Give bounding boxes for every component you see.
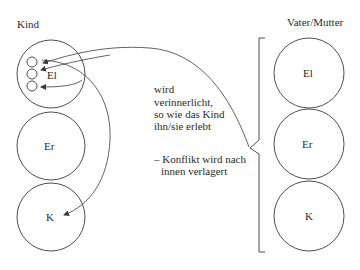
introject-circle-2 (27, 69, 37, 79)
annotation-line-4: ihn/sie erlebt (154, 120, 211, 133)
diagram-canvas (0, 0, 360, 270)
parent-k-label: K (305, 210, 313, 223)
kind-el-label: El (47, 69, 57, 82)
kind-k-label: K (46, 211, 54, 224)
note-line-2: innen verlagert (161, 165, 227, 178)
introject-circle-1 (27, 57, 37, 67)
kind-er-label: Er (44, 140, 54, 153)
parent-el-label: El (303, 67, 313, 80)
introject-circle-3 (27, 81, 37, 91)
el-inner-arrow (41, 55, 110, 70)
parent-er-label: Er (302, 138, 312, 151)
kind-title: Kind (17, 18, 39, 31)
bracket (250, 38, 265, 252)
annotation-line-1: wird (154, 83, 174, 96)
parent-title: Vater/Mutter (287, 16, 343, 29)
